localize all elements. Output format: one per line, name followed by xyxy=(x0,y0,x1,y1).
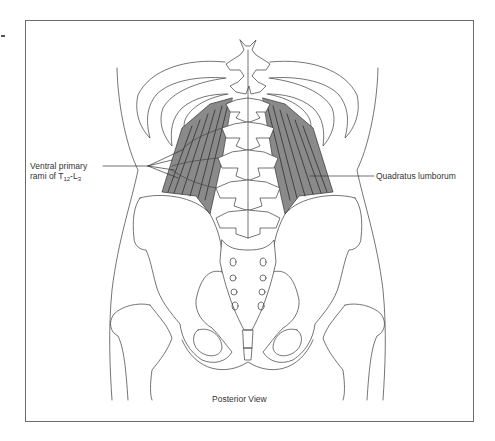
rami-label-line1: Ventral primary xyxy=(30,161,87,171)
ventral-primary-rami-label: Ventral primary rami of T12-L3 xyxy=(30,161,87,181)
posterior-view-illustration xyxy=(0,0,495,441)
quadratus-lumborum-label: Quadratus lumborum xyxy=(376,171,456,181)
rami-label-line2: rami of T12-L3 xyxy=(30,171,87,181)
view-caption: Posterior View xyxy=(212,394,267,404)
